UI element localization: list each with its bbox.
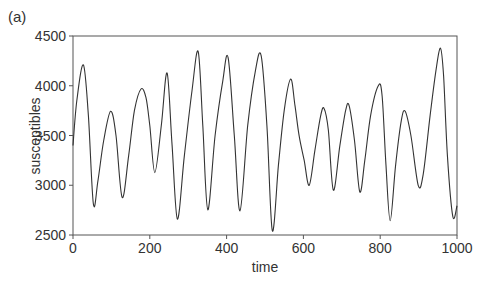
y-axis-label: susceptibles bbox=[27, 97, 43, 174]
x-tick-label: 800 bbox=[369, 240, 393, 256]
line-chart: 25003000350040004500 02004006008001000 s… bbox=[0, 0, 490, 285]
x-tick-label: 200 bbox=[138, 240, 162, 256]
y-tick-label: 4000 bbox=[35, 78, 66, 94]
susceptibles-line bbox=[73, 48, 457, 231]
y-tick-label: 4500 bbox=[35, 28, 66, 44]
x-tick-label: 400 bbox=[215, 240, 239, 256]
x-tick-label: 0 bbox=[69, 240, 77, 256]
y-tick-label: 2500 bbox=[35, 227, 66, 243]
y-tick-label: 3000 bbox=[35, 177, 66, 193]
x-tick-label: 1000 bbox=[441, 240, 472, 256]
x-axis: 02004006008001000 bbox=[69, 235, 473, 256]
x-axis-label: time bbox=[252, 259, 279, 275]
x-tick-label: 600 bbox=[292, 240, 316, 256]
